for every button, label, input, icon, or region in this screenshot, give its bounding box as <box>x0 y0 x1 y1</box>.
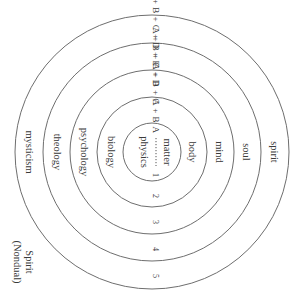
ring-5-inner-label: spirit <box>269 141 280 163</box>
ring-1-outer-label: physics <box>139 136 150 168</box>
ring-2-inner-label: body <box>187 142 198 164</box>
concentric-diagram: matter physics A 1 body biology A + B 2 … <box>0 0 294 301</box>
ring-1-inner-label: matter <box>162 139 173 166</box>
outer-caption-line1: Spirit <box>24 250 35 273</box>
ring-5-number: 5 <box>151 274 160 278</box>
ring-2-number: 2 <box>151 194 160 198</box>
ring-5-sequence: A + B + C + D + E <box>151 0 161 66</box>
outer-caption-line2: (Nondual) <box>11 240 23 284</box>
ring-4-number: 4 <box>151 247 160 251</box>
ring-4-outer-label: theology <box>52 134 63 171</box>
ring-3-inner-label: mind <box>214 141 225 163</box>
ring-4-inner-label: soul <box>241 143 252 161</box>
ring-3-number: 3 <box>151 220 160 224</box>
ring-1-sequence: A <box>151 127 161 134</box>
ring-1-number: 1 <box>151 173 160 177</box>
ring-2-outer-label: biology <box>106 136 117 169</box>
ring-5-outer-label: mysticism <box>24 130 35 173</box>
ring-3-outer-label: psychology <box>79 128 90 177</box>
